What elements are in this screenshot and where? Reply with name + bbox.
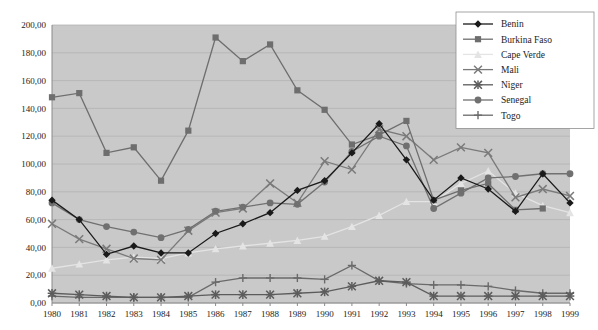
y-axis-tick-label: 200,00 <box>21 20 46 30</box>
marker-square <box>131 144 137 150</box>
x-axis-tick-label: 1986 <box>207 309 226 319</box>
marker-circle <box>294 201 301 208</box>
y-axis-tick-label: 120,00 <box>21 131 46 141</box>
marker-circle <box>267 200 274 207</box>
x-axis-tick-label: 1987 <box>234 309 253 319</box>
x-axis-tick-label: 1992 <box>370 309 388 319</box>
y-axis-tick-label: 60,00 <box>26 215 47 225</box>
marker-circle <box>475 97 482 104</box>
x-axis-tick-label: 1994 <box>425 309 444 319</box>
marker-circle <box>130 229 137 236</box>
x-axis-tick-label: 1981 <box>70 309 88 319</box>
y-axis-tick-label: 140,00 <box>21 104 46 114</box>
marker-star <box>129 293 138 302</box>
marker-star <box>511 292 520 301</box>
marker-square <box>212 34 218 40</box>
marker-star <box>102 292 111 301</box>
marker-star <box>474 81 483 90</box>
marker-star <box>157 293 166 302</box>
x-axis-tick-label: 1988 <box>261 309 280 319</box>
legend-label: Togo <box>501 111 521 121</box>
marker-square <box>49 94 55 100</box>
x-axis-tick-label: 1995 <box>452 309 471 319</box>
marker-square <box>103 150 109 156</box>
legend-label: Benin <box>501 19 524 29</box>
marker-star <box>566 292 575 301</box>
legend: BeninBurkina FasoCape VerdeMaliNigerSene… <box>456 12 594 128</box>
marker-circle <box>430 205 437 212</box>
legend-label: Mali <box>501 65 519 75</box>
marker-square <box>458 187 464 193</box>
marker-square <box>240 58 246 64</box>
marker-star <box>484 292 493 301</box>
x-axis-tick-label: 1997 <box>506 309 525 319</box>
y-axis-tick-label: 20,00 <box>26 270 47 280</box>
marker-star <box>293 289 302 298</box>
marker-square <box>475 36 481 42</box>
marker-star <box>266 290 275 299</box>
marker-star <box>375 276 384 285</box>
legend-label: Niger <box>501 80 523 90</box>
marker-star <box>211 290 220 299</box>
marker-star <box>239 290 248 299</box>
legend-label: Cape Verde <box>501 50 545 60</box>
marker-square <box>403 118 409 124</box>
marker-star <box>429 292 438 301</box>
marker-square <box>322 107 328 113</box>
y-axis-tick-label: 180,00 <box>21 48 46 58</box>
x-axis-tick-label: 1999 <box>561 309 580 319</box>
y-axis-tick-label: 40,00 <box>26 243 47 253</box>
marker-circle <box>212 208 219 215</box>
x-axis-tick-label: 1989 <box>288 309 307 319</box>
marker-star <box>457 292 466 301</box>
x-axis-tick-label: 1993 <box>397 309 416 319</box>
marker-circle <box>567 170 574 177</box>
marker-square <box>294 87 300 93</box>
x-axis-tick-label: 1991 <box>343 309 361 319</box>
marker-circle <box>485 175 492 182</box>
marker-square <box>185 128 191 134</box>
marker-circle <box>103 223 110 230</box>
marker-square <box>376 132 382 138</box>
marker-star <box>402 278 411 287</box>
x-axis-tick-label: 1985 <box>179 309 198 319</box>
marker-star <box>184 292 193 301</box>
marker-star <box>75 290 84 299</box>
x-axis-tick-label: 1984 <box>152 309 171 319</box>
chart-root: 0,0020,0040,0060,0080,00100,00120,00140,… <box>0 0 598 330</box>
x-axis-tick-label: 1998 <box>534 309 553 319</box>
legend-label: Senegal <box>501 95 531 105</box>
y-axis-tick-label: 100,00 <box>21 159 46 169</box>
legend-label: Burkina Faso <box>501 35 552 45</box>
y-axis-tick-label: 80,00 <box>26 187 47 197</box>
x-axis-tick-label: 1983 <box>125 309 144 319</box>
marker-square <box>76 90 82 96</box>
marker-circle <box>158 234 165 241</box>
x-axis-tick-label: 1980 <box>43 309 62 319</box>
line-chart: 0,0020,0040,0060,0080,00100,00120,00140,… <box>0 0 598 330</box>
x-axis-tick-label: 1996 <box>479 309 498 319</box>
marker-square <box>540 205 546 211</box>
marker-circle <box>185 226 192 233</box>
y-axis-tick-label: 160,00 <box>21 76 46 86</box>
marker-star <box>538 292 547 301</box>
marker-star <box>48 289 57 298</box>
marker-square <box>158 178 164 184</box>
marker-star <box>320 288 329 297</box>
marker-square <box>349 141 355 147</box>
x-axis-tick-label: 1982 <box>98 309 116 319</box>
y-axis-tick-label: 0,00 <box>30 298 46 308</box>
marker-circle <box>239 204 246 211</box>
x-axis-tick-label: 1990 <box>316 309 335 319</box>
marker-square <box>267 41 273 47</box>
marker-circle <box>512 173 519 180</box>
marker-star <box>348 282 357 291</box>
marker-circle <box>403 143 410 150</box>
